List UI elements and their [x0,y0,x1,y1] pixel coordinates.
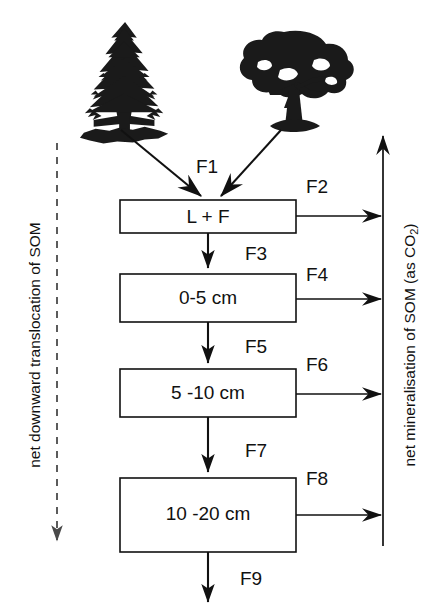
flux-label-F7: F7 [245,440,267,461]
broadleaf-tree-icon [240,31,354,132]
flux-label-F5: F5 [245,336,267,357]
pool-box-lf: L + F [120,200,296,233]
net-downward-translocation-axis: net downward translocation of SOM [26,143,57,540]
pool-box-0-5cm: 0-5 cm [120,274,296,322]
flux-label-F6: F6 [306,354,328,375]
pool-box-5-10cm: 5 -10 cm [120,369,296,417]
flux-label-F4: F4 [306,264,329,285]
right-axis-label: net mineralisation of SOM (as CO2) [401,223,420,466]
flux-label-F1: F1 [196,156,218,177]
pool-label-0-5cm: 0-5 cm [179,287,237,308]
pool-label-lf: L + F [186,206,229,227]
som-flux-diagram: L + F 0-5 cm 5 -10 cm 10 -20 cm [0,0,440,613]
flux-label-F8: F8 [306,468,328,489]
flux-label-F3: F3 [245,243,267,264]
flux-label-F2: F2 [306,176,328,197]
net-mineralisation-axis: net mineralisation of SOM (as CO2) [383,136,420,546]
conifer-tree-icon [80,22,168,144]
diagram-canvas: L + F 0-5 cm 5 -10 cm 10 -20 cm [0,0,440,613]
left-axis-label: net downward translocation of SOM [26,222,43,468]
right-axis-label-tail: ) [401,223,418,228]
pool-label-5-10cm: 5 -10 cm [171,382,245,403]
flux-label-F9: F9 [240,568,262,589]
pool-label-10-20cm: 10 -20 cm [166,503,250,524]
pool-box-10-20cm: 10 -20 cm [120,478,296,552]
right-axis-label-main: net mineralisation of SOM (as CO [401,235,418,467]
